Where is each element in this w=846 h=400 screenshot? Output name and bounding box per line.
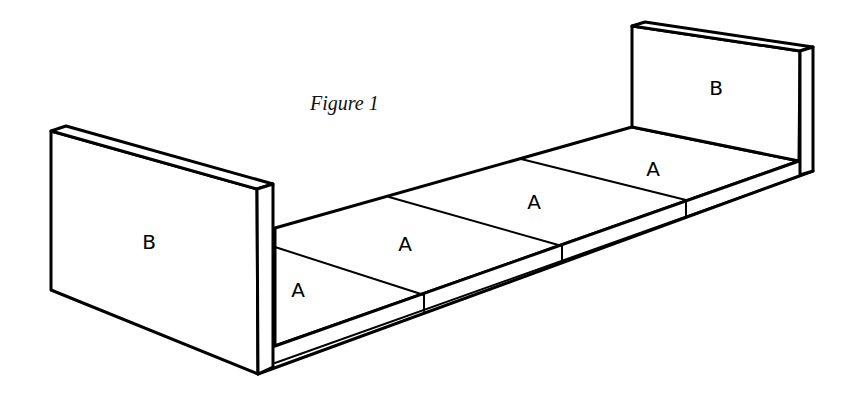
figure-caption: Figure 1 — [309, 92, 379, 115]
base-top-surface — [275, 127, 799, 346]
left-panel-side-edge — [257, 184, 273, 374]
slab-label-2: A — [398, 232, 412, 256]
right-panel-label: B — [709, 76, 723, 100]
right-panel-side-edge — [800, 47, 813, 175]
slab-label-3: A — [527, 190, 541, 214]
bookshelf-diagram: Figure 1 B B A A A A — [0, 0, 846, 400]
left-end-panel: B — [51, 126, 273, 374]
left-panel-label: B — [142, 230, 156, 254]
base-slabs — [258, 127, 813, 374]
slab-label-1: A — [291, 278, 305, 302]
slab-label-4: A — [646, 157, 660, 181]
